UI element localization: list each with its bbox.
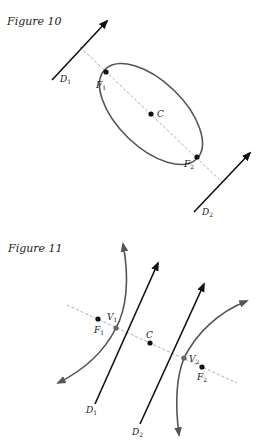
label-f2: F2 — [196, 372, 207, 383]
figure-11-caption: Figure 11 — [7, 242, 63, 255]
label-c: C — [146, 330, 153, 340]
label-v1: V1 — [107, 312, 117, 323]
label-d2: D2 — [201, 207, 213, 218]
label-c: C — [157, 109, 164, 119]
label-d1: D1 — [59, 74, 71, 85]
directrix-d1-line — [52, 21, 107, 80]
figure-10: Figure 10 F1 C F2 D1 D2 — [6, 15, 250, 218]
vertex-v1-point — [113, 325, 118, 330]
vertex-v2-point — [181, 355, 186, 360]
figure-11: Figure 11 F1 V1 C V2 F2 D1 D2 — [7, 242, 247, 438]
hyperbola-left-branch — [58, 244, 127, 383]
directrix-d2-line — [194, 153, 250, 212]
label-f2: F2 — [183, 159, 194, 170]
focus-f1-point — [103, 69, 108, 74]
diagram-canvas: Figure 10 F1 C F2 D1 D2 Figure 11 — [0, 0, 271, 440]
label-f1: F1 — [95, 80, 106, 91]
center-c-point — [148, 111, 153, 116]
focus-f2-point — [194, 154, 199, 159]
label-v2: V2 — [189, 354, 200, 365]
label-d2: D2 — [131, 427, 143, 438]
label-d1: D1 — [85, 405, 97, 416]
focus-f2-point — [199, 364, 204, 369]
figure-10-caption: Figure 10 — [6, 15, 62, 28]
focus-f1-point — [95, 316, 100, 321]
center-c-point — [147, 340, 152, 345]
label-f1: F1 — [93, 325, 104, 336]
